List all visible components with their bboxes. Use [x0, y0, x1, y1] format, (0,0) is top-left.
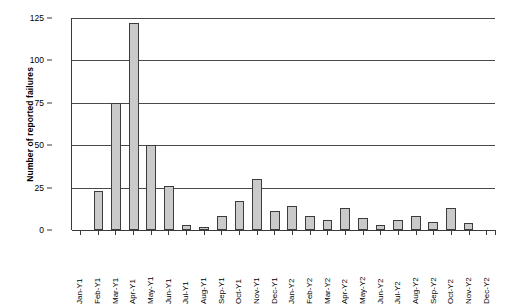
y-tick-label-100: 100	[30, 55, 44, 65]
x-axis-label-text: Feb-Y2	[305, 237, 314, 304]
x-tick-mark	[292, 230, 293, 235]
bar-chart: Number of reported failures 025507510012…	[0, 0, 520, 304]
x-axis-label-text: Dec-Y1	[270, 237, 279, 304]
x-axis-label: Sep-Y2	[424, 236, 442, 304]
x-axis-label-text: Jan-Y1	[75, 237, 84, 304]
x-axis-label-text: Aug-Y2	[411, 237, 420, 304]
x-tick-mark	[310, 230, 311, 235]
x-axis-label-text: Sep-Y1	[217, 237, 226, 304]
x-axis-label: Sep-Y1	[212, 236, 230, 304]
bar-slot	[425, 18, 443, 230]
bar-slot	[372, 18, 390, 230]
x-tick-mark	[486, 230, 487, 235]
x-tick-mark	[80, 230, 81, 235]
bar	[111, 103, 121, 230]
x-axis-label-text: Jun-Y1	[164, 237, 173, 304]
x-tick-mark	[151, 230, 152, 235]
x-axis-label: Apr-Y1	[124, 236, 142, 304]
x-tick-mark	[204, 230, 205, 235]
bar	[411, 216, 421, 230]
x-axis-label-text: Sep-Y2	[429, 237, 438, 304]
x-axis-label: Nov-Y1	[248, 236, 266, 304]
x-axis-label-text: May-Y2	[358, 237, 367, 304]
x-axis-label: Feb-Y2	[301, 236, 319, 304]
bar-slot	[442, 18, 460, 230]
x-tick-mark	[239, 230, 240, 235]
x-axis-label-text: Apr-Y2	[340, 237, 349, 304]
x-axis-label-text: Aug-Y1	[199, 237, 208, 304]
y-tick-mark-100	[47, 60, 52, 61]
bar-slot	[125, 18, 143, 230]
bar-slot	[143, 18, 161, 230]
x-tick-mark	[451, 230, 452, 235]
x-axis-label: Dec-Y1	[265, 236, 283, 304]
bar-slot	[319, 18, 337, 230]
x-tick-mark	[274, 230, 275, 235]
x-axis-label: Aug-Y2	[407, 236, 425, 304]
x-axis-label-text: Jul-Y2	[393, 237, 402, 304]
bar-slot	[195, 18, 213, 230]
x-tick-mark	[345, 230, 346, 235]
x-axis-label-text: Jan-Y2	[287, 237, 296, 304]
x-tick-mark	[115, 230, 116, 235]
x-axis-label-text: Feb-Y1	[93, 237, 102, 304]
x-axis-label: Jun-Y1	[159, 236, 177, 304]
bar-slot	[213, 18, 231, 230]
bar	[235, 201, 245, 230]
bar-slot	[477, 18, 495, 230]
x-axis-label-text: Jun-Y2	[376, 237, 385, 304]
x-axis-label-text: Oct-Y1	[234, 237, 243, 304]
x-axis-label: Oct-Y1	[230, 236, 248, 304]
bar	[146, 145, 156, 230]
bar-slot	[160, 18, 178, 230]
x-axis-label: Apr-Y2	[336, 236, 354, 304]
bar-slot	[107, 18, 125, 230]
x-axis-label: Aug-Y1	[195, 236, 213, 304]
x-axis-label: Jan-Y1	[71, 236, 89, 304]
bar-slot	[178, 18, 196, 230]
x-axis-label-text: Dec-Y2	[482, 237, 491, 304]
bar-slot	[231, 18, 249, 230]
bar	[393, 220, 403, 230]
x-axis-label: May-Y2	[354, 236, 372, 304]
bar	[464, 223, 474, 230]
x-tick-mark	[495, 230, 496, 235]
y-tick-mark-25	[47, 187, 52, 188]
y-tick-mark-50	[47, 145, 52, 146]
x-axis-label: Mar-Y1	[106, 236, 124, 304]
x-axis-label: Mar-Y2	[318, 236, 336, 304]
bar-slot	[248, 18, 266, 230]
x-axis-label-text: Mar-Y2	[323, 237, 332, 304]
x-tick-mark	[221, 230, 222, 235]
bar-slot	[72, 18, 90, 230]
x-tick-mark	[363, 230, 364, 235]
y-tick-label-50: 50	[35, 140, 44, 150]
x-axis-label-text: Nov-Y2	[464, 237, 473, 304]
bar-slot	[301, 18, 319, 230]
bar	[129, 23, 139, 230]
bar	[164, 186, 174, 230]
x-tick-mark	[133, 230, 134, 235]
x-tick-mark	[398, 230, 399, 235]
bar	[323, 220, 333, 230]
x-tick-mark	[98, 230, 99, 235]
bar	[358, 218, 368, 230]
y-tick-mark-0	[47, 230, 52, 231]
x-tick-mark	[469, 230, 470, 235]
plot-area	[71, 18, 495, 230]
x-axis-label-text: Nov-Y1	[252, 237, 261, 304]
bar-slot	[336, 18, 354, 230]
x-axis-label: Jul-Y1	[177, 236, 195, 304]
y-tick-mark-125	[47, 18, 52, 19]
x-axis-label: Jan-Y2	[283, 236, 301, 304]
bar	[270, 211, 280, 230]
bar-slot	[354, 18, 372, 230]
x-axis-label: Jun-Y2	[371, 236, 389, 304]
bar-slot	[389, 18, 407, 230]
bar-series	[72, 18, 495, 230]
x-tick-mark	[168, 230, 169, 235]
bar	[428, 222, 438, 230]
x-axis: Jan-Y1Feb-Y1Mar-Y1Apr-Y1May-Y1Jun-Y1Jul-…	[71, 230, 495, 304]
x-tick-mark	[380, 230, 381, 235]
bar-slot	[460, 18, 478, 230]
